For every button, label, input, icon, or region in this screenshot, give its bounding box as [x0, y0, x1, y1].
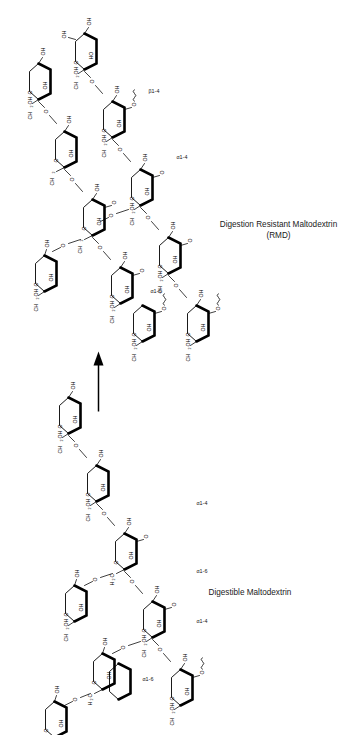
svg-text:O: O [42, 728, 48, 732]
svg-text:OH: OH [113, 85, 119, 93]
svg-text:CH: CH [62, 633, 68, 641]
svg-text:O: O [72, 443, 78, 447]
svg-text:OH: OH [57, 719, 63, 727]
svg-text:OH: OH [65, 115, 71, 123]
svg-text:O: O [142, 534, 148, 538]
svg-text:OH: OH [56, 430, 62, 438]
svg-text:O: O [119, 645, 125, 649]
svg-text:OH: OH [181, 653, 187, 661]
svg-text:OH: OH [67, 149, 73, 157]
svg-text:CH: CH [32, 303, 38, 311]
linkage-label-top-0: β1-4 [148, 87, 159, 93]
svg-text:OH: OH [47, 273, 53, 281]
conversion-arrow-icon [78, 349, 118, 413]
svg-text:O: O [52, 158, 58, 162]
svg-text:O: O [71, 697, 77, 701]
svg-text:O: O [130, 102, 136, 106]
svg-text:O: O [130, 332, 136, 336]
svg-text:O: O [144, 215, 150, 219]
svg-text:O: O [107, 213, 113, 217]
conversion-arrow-wrap [78, 349, 118, 413]
svg-text:O: O [198, 670, 204, 674]
svg-text:O: O [80, 226, 86, 230]
svg-text:O: O [112, 560, 118, 564]
svg-text:2: 2 [52, 171, 56, 173]
caption-line-1: Digestible Maltodextrin [208, 587, 291, 596]
svg-text:OH: OH [155, 619, 161, 627]
svg-text:OH: OH [199, 323, 205, 331]
svg-text:OH: OH [99, 483, 105, 491]
svg-text:OH: OH [43, 239, 49, 247]
svg-text:OH: OH [140, 634, 146, 642]
svg-text:OH: OH [183, 687, 189, 695]
svg-text:OH: OH [153, 585, 159, 593]
svg-text:H: H [108, 581, 114, 585]
svg-text:OH: OH [130, 338, 136, 346]
rmd-caption: Digestion Resistant Maltodextrin (RMD) [208, 219, 342, 240]
svg-text:OH: OH [156, 270, 162, 278]
svg-text:O: O [42, 109, 48, 113]
svg-text:CH: CH [168, 717, 174, 725]
svg-text:O: O [172, 283, 178, 287]
svg-text:OH: OH [84, 498, 90, 506]
svg-text:OH: OH [69, 381, 75, 389]
svg-text:OH: OH [53, 685, 59, 693]
svg-text:O: O [158, 170, 164, 174]
digestible-maltodextrin-panel: O O CH2OH OH [0, 395, 236, 735]
svg-text:O: O [156, 647, 162, 651]
svg-text:OH: OH [123, 285, 129, 293]
svg-text:O: O [168, 696, 174, 700]
linkage-label-bottom-3: α1-6 [142, 675, 153, 681]
svg-text:O: O [184, 332, 190, 336]
svg-text:OH: OH [100, 134, 106, 142]
svg-text:O: O [186, 238, 192, 242]
svg-text:HO: HO [87, 51, 93, 59]
svg-text:O: O [128, 196, 134, 200]
digestion-resistant-maltodextrin-panel: O CH2OH OH OH O O O [0, 0, 236, 349]
svg-text:OH: OH [41, 81, 47, 89]
svg-text:OH: OH [60, 30, 66, 38]
svg-text:O: O [84, 492, 90, 496]
svg-text:OH: OH [141, 153, 147, 161]
linkage-label-bottom-2: α1-4 [196, 617, 207, 623]
svg-text:O: O [170, 602, 176, 606]
svg-text:OH: OH [32, 288, 38, 296]
svg-text:O: O [108, 294, 114, 298]
svg-text:O: O [26, 90, 32, 94]
svg-text:CH: CH [76, 245, 82, 253]
svg-text:CH: CH [130, 353, 136, 361]
svg-text:CH: CH [100, 149, 106, 157]
svg-text:CH: CH [128, 217, 134, 225]
svg-text:O: O [90, 680, 96, 684]
svg-text:OH: OH [127, 551, 133, 559]
svg-text:OH: OH [71, 415, 77, 423]
svg-text:O: O [110, 200, 116, 204]
digestible-maltodextrin-structure: O O CH2OH OH [0, 395, 236, 735]
svg-text:CH: CH [140, 649, 146, 657]
svg-text:CH: CH [184, 353, 190, 361]
caption-line-1: Digestion Resistant Maltodextrin [208, 219, 342, 230]
svg-text:O: O [100, 128, 106, 132]
svg-text:OH: OH [145, 323, 151, 331]
svg-text:OH: OH [72, 66, 78, 74]
svg-text:O: O [140, 628, 146, 632]
svg-text:O: O [160, 306, 166, 310]
svg-text:O: O [156, 264, 162, 268]
svg-text:O: O [116, 147, 122, 151]
svg-text:OH: OH [168, 702, 174, 710]
svg-text:O: O [100, 511, 106, 515]
svg-text:OH: OH [184, 338, 190, 346]
svg-text:OH: OH [101, 637, 107, 645]
svg-text:OH: OH [125, 517, 131, 525]
svg-text:OH: OH [95, 217, 101, 225]
svg-text:OH: OH [93, 183, 99, 191]
svg-text:O: O [88, 79, 94, 83]
svg-text:CH: CH [108, 315, 114, 323]
svg-text:OH: OH [108, 300, 114, 308]
svg-text:OH: OH [73, 569, 79, 577]
svg-text:O: O [91, 577, 97, 581]
linkage-label-top-1: α1-4 [176, 153, 187, 159]
svg-text:O: O [32, 282, 38, 286]
